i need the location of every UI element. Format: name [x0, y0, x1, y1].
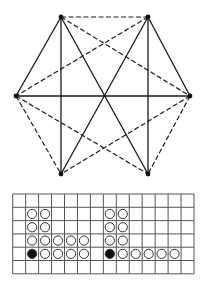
open-piece	[157, 249, 166, 258]
open-piece	[118, 209, 127, 218]
open-piece	[131, 249, 140, 258]
open-piece	[40, 236, 49, 245]
board-grid-diagram	[0, 0, 204, 287]
open-piece	[40, 209, 49, 218]
open-piece	[28, 236, 37, 245]
grid-lines	[13, 194, 194, 274]
open-piece	[66, 236, 75, 245]
open-piece	[40, 223, 49, 232]
open-piece	[53, 236, 62, 245]
filled-piece	[105, 249, 114, 258]
open-piece	[28, 223, 37, 232]
open-piece	[79, 236, 88, 245]
open-piece	[40, 249, 49, 258]
open-piece	[105, 236, 114, 245]
open-piece	[105, 223, 114, 232]
open-piece	[66, 249, 75, 258]
open-piece	[118, 249, 127, 258]
open-piece	[118, 236, 127, 245]
open-piece	[144, 249, 153, 258]
open-piece	[28, 209, 37, 218]
open-piece	[105, 209, 114, 218]
open-piece	[53, 249, 62, 258]
open-piece	[79, 249, 88, 258]
open-piece	[170, 249, 179, 258]
open-piece	[118, 223, 127, 232]
filled-piece	[28, 249, 37, 258]
